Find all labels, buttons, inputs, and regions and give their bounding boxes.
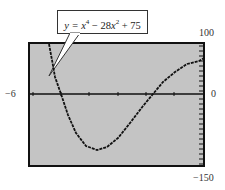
y-axis-ticks [199, 46, 203, 164]
xmin-label: −6 [5, 88, 16, 99]
xmax-label: 0 [211, 88, 216, 99]
plot-overlay [0, 0, 225, 190]
function-curve [49, 44, 204, 150]
ymax-label: 100 [199, 27, 214, 38]
ymin-label: −150 [193, 172, 214, 183]
